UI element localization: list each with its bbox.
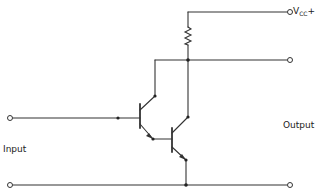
junction-dot	[151, 137, 154, 140]
output-bottom-terminal	[288, 183, 293, 188]
resistor-icon	[185, 27, 191, 45]
circuit-schematic	[0, 0, 316, 196]
output-top-terminal	[288, 58, 293, 63]
junction-dot	[186, 58, 190, 62]
output-label: Output	[283, 121, 314, 130]
vcc-label-sub: CC	[299, 10, 307, 17]
input-label: Input	[3, 145, 26, 154]
vcc-label-sign: +	[308, 6, 316, 16]
junction-dot	[116, 116, 119, 119]
vcc-label: VCC+	[293, 7, 315, 17]
junction-dot	[153, 94, 156, 97]
vcc-terminal	[288, 10, 293, 15]
input-bottom-terminal	[8, 183, 13, 188]
q1-collector-lead	[140, 96, 155, 110]
input-top-terminal	[8, 116, 13, 121]
junction-dot	[186, 115, 189, 118]
circuit-diagram: VCC+ Input Output	[0, 0, 316, 196]
junction-dot	[184, 183, 188, 187]
q2-collector-lead	[172, 117, 188, 133]
junction-dot	[184, 158, 187, 161]
